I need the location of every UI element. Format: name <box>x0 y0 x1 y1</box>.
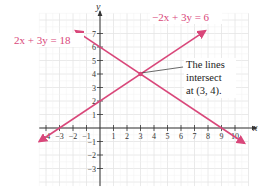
eq2-label: −2x + 3y = 6 <box>152 11 210 23</box>
svg-text:1: 1 <box>112 132 116 141</box>
svg-text:3: 3 <box>139 132 143 141</box>
equation-label-2: −2x + 3y = 6 <box>150 10 222 24</box>
svg-text:1: 1 <box>92 111 96 120</box>
svg-text:2: 2 <box>125 132 129 141</box>
x-axis-label: x <box>252 122 258 133</box>
svg-text:5: 5 <box>166 132 170 141</box>
note-line-2: intersect <box>186 72 222 83</box>
intersection-point <box>138 72 142 76</box>
svg-text:7: 7 <box>193 132 197 141</box>
svg-text:7: 7 <box>92 30 96 39</box>
svg-text:−1: −1 <box>87 138 96 147</box>
svg-text:8: 8 <box>206 132 210 141</box>
svg-text:−3: −3 <box>87 165 96 174</box>
svg-text:4: 4 <box>152 132 156 141</box>
svg-text:−2: −2 <box>69 132 78 141</box>
svg-text:−2: −2 <box>87 151 96 160</box>
svg-text:5: 5 <box>92 57 96 66</box>
coordinate-plane: −4−3−2−112345678910−3−2−11234567 2x + 3y… <box>0 0 265 187</box>
note-line-3: at (3, 4). <box>186 85 222 97</box>
equation-label-1: 2x + 3y = 18 <box>11 33 84 47</box>
svg-text:−3: −3 <box>55 132 64 141</box>
note-line-1: The lines <box>186 59 225 70</box>
svg-text:3: 3 <box>92 84 96 93</box>
y-axis-label: y <box>95 1 101 12</box>
svg-text:9: 9 <box>220 132 224 141</box>
svg-text:4: 4 <box>92 70 96 79</box>
eq1-label: 2x + 3y = 18 <box>14 34 71 46</box>
line-series-2 <box>39 31 205 142</box>
svg-text:6: 6 <box>179 132 183 141</box>
